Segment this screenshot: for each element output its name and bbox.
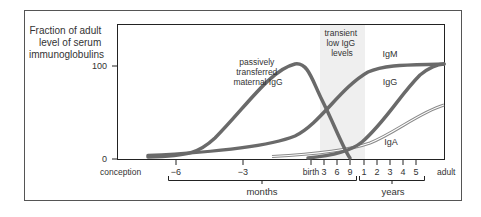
months-label: months [246,186,277,197]
x-tick-label: 6 [334,167,339,177]
iga-label: IgA [384,137,398,147]
y-tick-label-0: 0 [102,154,107,164]
maternal-igg-annotation: passively transferred maternal IgG [233,57,282,87]
years-label: years [381,186,404,197]
x-tick-label: 2 [374,167,379,177]
x-label-adult: adult [437,167,456,177]
x-tick-label: birth [303,167,320,177]
x-tick-label: 4 [400,167,405,177]
immunoglobulin-levels-diagram: Fraction of adult level of serum immunog… [0,0,481,217]
y-axis-label: Fraction of adult level of serum immunog… [29,25,104,60]
x-tick-label: −6 [171,167,181,177]
x-tick-label: 1 [361,167,366,177]
y-tick-label-100: 100 [92,61,107,71]
igm-label: IgM [382,49,397,59]
x-label-conception: conception [100,167,141,177]
x-tick-label: 3 [387,167,392,177]
x-tick-label: 9 [347,167,352,177]
igg-label: IgG [383,77,398,87]
x-tick-label: −3 [238,167,248,177]
x-tick-label: 3 [321,167,326,177]
x-tick-label: 5 [413,167,418,177]
